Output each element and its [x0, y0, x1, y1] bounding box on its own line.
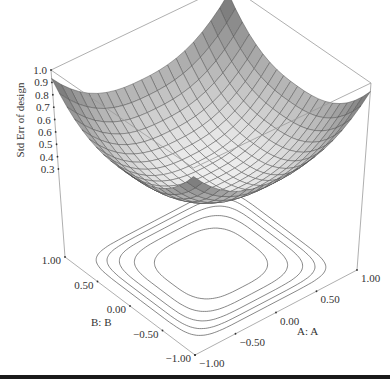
z-tick-label: 0.6 — [38, 126, 52, 138]
contour-line — [119, 206, 302, 321]
b-tick-label: 1.00 — [42, 254, 62, 266]
surface-plot: 1.00.90.80.70.60.60.50.40.3 −1.00−0.500.… — [0, 0, 390, 385]
a-tick-label: −0.50 — [240, 336, 266, 348]
a-tick-mark — [316, 290, 318, 292]
z-tick-mark — [56, 143, 58, 145]
contour-line — [154, 228, 267, 299]
z-tick-label: 0.4 — [40, 151, 54, 163]
b-tick-label: −1.00 — [166, 352, 192, 364]
b-tick-mark — [129, 305, 131, 307]
contour-line — [107, 198, 315, 328]
z-tick-label: 0.3 — [41, 163, 55, 175]
b-tick-label: 0.00 — [107, 303, 127, 315]
response-surface — [52, 0, 371, 204]
z-tick-label: 0.6 — [37, 114, 51, 126]
contour-line — [134, 216, 287, 312]
z-tick-mark — [50, 69, 52, 71]
y-axis-title: B: B — [91, 316, 111, 328]
z-tick-label: 0.8 — [35, 89, 49, 101]
x-axis-title: A: A — [297, 325, 318, 337]
a-tick-label: 0.50 — [321, 293, 341, 305]
z-tick-mark — [53, 106, 55, 108]
b-tick-mark — [162, 330, 164, 332]
z-tick-label: 0.5 — [39, 138, 53, 150]
a-tick-label: −1.00 — [199, 357, 225, 369]
z-tick-mark — [54, 119, 56, 121]
bottom-rule — [0, 375, 390, 379]
z-tick-mark — [55, 131, 57, 133]
z-tick-label: 1.0 — [33, 64, 47, 76]
x-axis-a: −1.00−0.500.000.501.00 — [194, 269, 381, 369]
z-tick-mark — [58, 168, 60, 170]
z-axis-title: Std Err of design — [14, 82, 26, 157]
z-tick-mark — [52, 94, 54, 96]
a-tick-mark — [275, 312, 277, 314]
box-right-vertical-edge — [357, 83, 371, 270]
b-tick-mark — [194, 354, 196, 356]
a-tick-mark — [235, 333, 237, 335]
a-tick-label: 1.00 — [361, 272, 381, 284]
b-tick-label: 0.50 — [74, 279, 94, 291]
b-tick-mark — [64, 256, 66, 258]
b-tick-mark — [97, 281, 99, 283]
z-tick-label: 0.7 — [36, 101, 50, 113]
a-tick-mark — [356, 269, 358, 271]
b-tick-label: −0.50 — [133, 328, 159, 340]
z-tick-mark — [51, 81, 53, 83]
z-tick-label: 0.9 — [34, 76, 48, 88]
z-tick-mark — [57, 156, 59, 158]
